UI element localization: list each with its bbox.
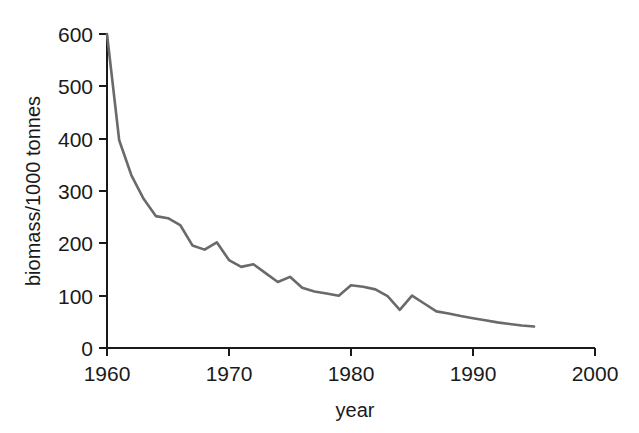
chart-figure: 600 500 400 300 200 100 0 1960 1970 1980… — [0, 0, 639, 433]
y-tick-label-500: 500 — [58, 75, 93, 98]
x-tick-label-1960: 1960 — [84, 362, 131, 385]
y-tick-label-200: 200 — [58, 232, 93, 255]
y-axis-title: biomass/1000 tonnes — [22, 96, 44, 286]
x-tick-label-1990: 1990 — [450, 362, 497, 385]
x-tick-label-1970: 1970 — [206, 362, 253, 385]
x-tick-label-2000: 2000 — [572, 362, 619, 385]
y-tick-label-400: 400 — [58, 128, 93, 151]
y-tick-label-300: 300 — [58, 180, 93, 203]
y-axis-ticks — [99, 34, 107, 348]
y-tick-label-600: 600 — [58, 23, 93, 46]
x-axis-title: year — [336, 399, 375, 421]
x-tick-label-1980: 1980 — [328, 362, 375, 385]
x-axis-ticks — [107, 348, 595, 356]
y-tick-label-100: 100 — [58, 285, 93, 308]
series-line-biomass — [107, 34, 534, 327]
y-tick-label-0: 0 — [81, 337, 93, 360]
line-chart: 600 500 400 300 200 100 0 1960 1970 1980… — [0, 0, 639, 433]
